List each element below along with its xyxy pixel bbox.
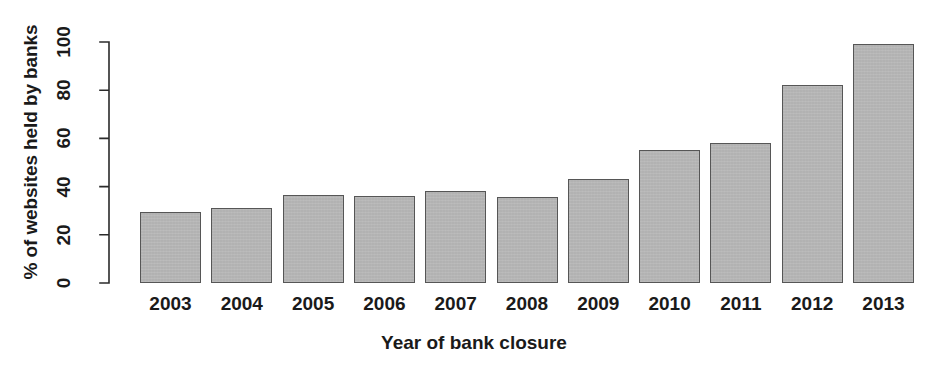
bar-chart: % of websites held by banks 020406080100… bbox=[0, 0, 948, 373]
x-tick-label: 2012 bbox=[776, 292, 849, 316]
x-axis-title: Year of bank closure bbox=[0, 332, 948, 354]
bar bbox=[497, 197, 558, 283]
bar bbox=[283, 195, 344, 283]
x-tick-label: 2008 bbox=[491, 292, 564, 316]
x-tick-label: 2004 bbox=[205, 292, 278, 316]
y-tick-label: 100 bbox=[53, 16, 75, 68]
y-tick-label: 40 bbox=[53, 161, 75, 213]
y-tick-label: 80 bbox=[53, 64, 75, 116]
x-tick-label: 2006 bbox=[348, 292, 421, 316]
x-tick-label: 2003 bbox=[134, 292, 207, 316]
bar bbox=[568, 179, 629, 283]
bar bbox=[639, 150, 700, 283]
x-tick-label: 2007 bbox=[419, 292, 492, 316]
bar bbox=[853, 44, 914, 283]
y-tick-label: 0 bbox=[53, 257, 75, 309]
y-axis-title: % of websites held by banks bbox=[14, 7, 48, 297]
x-tick-label: 2010 bbox=[633, 292, 706, 316]
y-tick-label: 20 bbox=[53, 209, 75, 261]
x-tick-label: 2005 bbox=[277, 292, 350, 316]
x-tick-label: 2013 bbox=[847, 292, 920, 316]
x-tick-label: 2009 bbox=[562, 292, 635, 316]
bar bbox=[425, 191, 486, 283]
bar bbox=[211, 208, 272, 283]
x-tick-label: 2011 bbox=[704, 292, 777, 316]
y-tick-label: 60 bbox=[53, 112, 75, 164]
bar bbox=[710, 143, 771, 283]
bar bbox=[140, 212, 201, 283]
bar bbox=[354, 196, 415, 283]
bar bbox=[782, 85, 843, 283]
